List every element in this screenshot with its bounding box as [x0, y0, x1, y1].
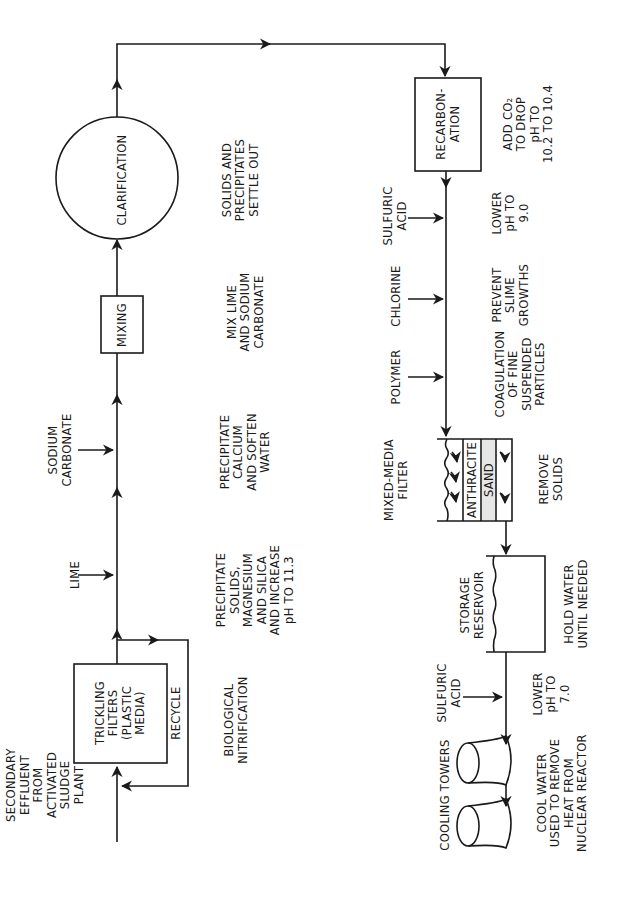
recarbonation-label-line: RECARBON- — [434, 88, 448, 159]
sodium-carbonate-label-line: CARBONATE — [60, 413, 74, 486]
input-label-line: SECONDARY — [4, 747, 18, 821]
sodium-carbonate-note-line: CALCIUM — [231, 425, 245, 479]
clarification-label-line: CLARIFICATION — [115, 135, 129, 226]
mixing-label-line: MIXING — [115, 303, 129, 347]
clarification-note-line: SOLIDS AND — [220, 143, 234, 217]
clarification-label: CLARIFICATION — [115, 135, 129, 226]
sulfuric-acid-1-label-line: ACID — [395, 201, 409, 230]
cooling-towers-note-line: USED TO REMOVE — [548, 739, 562, 848]
sodium-carbonate-label: SODIUMCARBONATE — [46, 413, 74, 486]
polymer-label: POLYMER — [389, 349, 403, 404]
top-connector-2 — [265, 44, 445, 76]
sodium-carbonate-note-line: PRECIPITATE — [218, 415, 232, 490]
trickling-filters-label-line: (PLASTIC — [120, 686, 134, 740]
mixing-note-line: AND SODIUM — [238, 273, 252, 352]
trickling-filters-label-line: FILTERS — [106, 690, 120, 737]
mixing-note: MIX LIMEAND SODIUMCARBONATE — [225, 273, 266, 352]
storage-reservoir-note: HOLD WATERUNTIL NEEDED — [562, 559, 590, 648]
cooling-towers-note: COOL WATERUSED TO REMOVEHEAT FROMNUCLEAR… — [535, 734, 590, 852]
chlorine-note-line: SLIME — [503, 277, 517, 313]
polymer-label-line: POLYMER — [389, 349, 403, 404]
polymer-note-line: PARTICLES — [533, 342, 547, 405]
recarbonation-note-line: ADD CO₂ — [501, 97, 515, 150]
chlorine-label-line: CHLORINE — [389, 265, 403, 326]
sulfuric-acid-1-label-line: SULFURIC — [381, 187, 395, 246]
cooling-tower-1 — [457, 736, 511, 785]
storage-reservoir-note-line: UNTIL NEEDED — [576, 559, 590, 648]
mixed-media-filter-label-line: FILTER — [396, 461, 410, 500]
input-label-line: EFFLUENT — [18, 754, 32, 815]
recycle-label-line: RECYCLE — [169, 686, 183, 739]
storage-reservoir-label-line: STORAGE — [458, 577, 472, 634]
storage-reservoir-note-line: HOLD WATER — [562, 564, 576, 644]
cooling-towers-note-line: NUCLEAR REACTOR — [575, 734, 589, 852]
sulfuric-acid-1-note-line: pH TO — [503, 194, 517, 231]
mixed-media-filter-label: MIXED-MEDIAFILTER — [382, 439, 410, 521]
recycle-label: RECYCLE — [169, 686, 183, 739]
recarbonation-label: RECARBON-ATION — [434, 88, 462, 159]
sodium-carbonate-note-line: WATER — [258, 431, 272, 473]
input-label-line: SLUDGE — [58, 761, 72, 809]
cooling-tower-2 — [457, 799, 511, 848]
cooling-towers-note-line: COOL WATER — [535, 753, 549, 832]
cooling-towers-label: COOLING TOWERS — [438, 739, 452, 850]
sulfuric-acid-1-label: SULFURICACID — [381, 187, 409, 246]
lime-label-line: LIME — [68, 561, 82, 589]
recarbonation-note-line: 10.2 TO 10.4 — [541, 85, 555, 163]
storage-reservoir-label: STORAGERESERVOIR — [458, 571, 486, 639]
sodium-carbonate-note: PRECIPITATECALCIUMAND SOFTENWATER — [218, 413, 273, 491]
sulfuric-acid-2-note-line: 7.0 — [558, 684, 572, 703]
sulfuric-acid-2-label-line: ACID — [449, 678, 463, 707]
chlorine-note-line: PREVENT — [490, 267, 504, 323]
lime-note-line: SOLIDS, — [228, 566, 242, 614]
sodium-carbonate-note-line: AND SOFTEN — [245, 413, 259, 491]
trickling-filters-note-line: NITRIFICATION — [236, 676, 250, 763]
recarbonation-note-line: TO DROP — [514, 97, 528, 153]
sulfuric-acid-2-label-line: SULFURIC — [435, 664, 449, 723]
chlorine-note-line: GROWTHS — [517, 264, 531, 326]
sulfuric-acid-1-note: LOWERpH TO9.0 — [490, 191, 531, 234]
input-label-line: ACTIVATED — [45, 752, 59, 818]
clarification-note-line: SETTLE OUT — [247, 143, 261, 217]
trickling-filters-note: BIOLOGICALNITRIFICATION — [222, 676, 250, 763]
mixed-media-filter-label-line: MIXED-MEDIA — [382, 439, 396, 521]
cooling-towers-note-line: HEAT FROM — [562, 758, 576, 828]
recarbonation-note: ADD CO₂TO DROPpH TO10.2 TO 10.4 — [501, 85, 556, 163]
chlorine-note: PREVENTSLIMEGROWTHS — [490, 264, 531, 326]
lime-note-line: AND INCREASE — [268, 545, 282, 635]
cooling-towers-label-line: COOLING TOWERS — [438, 739, 452, 850]
sulfuric-acid-2-note: LOWERpH TO7.0 — [531, 672, 572, 715]
lime-note-line: MAGNESIUM — [241, 553, 255, 627]
polymer-note-line: COAGULATION — [493, 331, 507, 418]
sulfuric-acid-2-label: SULFURICACID — [435, 664, 463, 723]
sulfuric-acid-1-note-line: LOWER — [490, 191, 504, 234]
lime-note-line: PRECIPITATE — [214, 553, 228, 628]
mixing-label: MIXING — [115, 303, 129, 347]
filter-layer-anthracite: ANTHRACITE — [465, 442, 479, 518]
sulfuric-acid-2-note-line: LOWER — [531, 672, 545, 715]
lime-note-line: AND SILICA — [255, 556, 269, 624]
recarbonation-label-line: ATION — [448, 106, 462, 143]
clarification-note: SOLIDS ANDPRECIPITATESSETTLE OUT — [220, 139, 261, 221]
mixing-note-line: MIX LIME — [225, 285, 239, 339]
sulfuric-acid-1-note-line: 9.0 — [517, 203, 531, 222]
storage-reservoir-shape — [486, 556, 545, 652]
polymer-note: COAGULATIONOF FINESUSPENDEDPARTICLES — [493, 331, 548, 418]
recarbonation-note-line: pH TO — [528, 105, 542, 142]
trickling-filters-label-line: MEDIA) — [133, 691, 147, 735]
mixed-media-filter-note-line: REMOVE — [537, 454, 551, 505]
lime-label: LIME — [68, 561, 82, 589]
mixing-note-line: CARBONATE — [252, 275, 266, 348]
filter-layer-sand: SAND — [482, 463, 496, 497]
input-label-line: FROM — [31, 768, 45, 803]
storage-reservoir-label-line: RESERVOIR — [472, 571, 486, 639]
polymer-note-line: SUSPENDED — [520, 337, 534, 411]
polymer-note-line: OF FINE — [506, 350, 520, 397]
top-connector-1 — [117, 44, 270, 82]
trickling-filters-label: TRICKLINGFILTERS(PLASTICMEDIA) — [93, 681, 148, 746]
mixed-media-filter-note-line: SOLIDS — [551, 457, 565, 501]
lime-note: PRECIPITATESOLIDS,MAGNESIUMAND SILICAAND… — [214, 545, 296, 635]
lime-note-line: pH TO 11.3 — [282, 556, 296, 624]
trickling-filters-label-line: TRICKLING — [93, 681, 107, 746]
mixed-media-filter-note: REMOVESOLIDS — [537, 454, 565, 505]
